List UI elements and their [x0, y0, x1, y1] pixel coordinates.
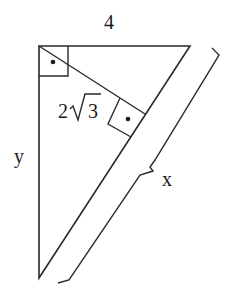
right-triangle	[39, 46, 190, 278]
right-angle-dot-foot	[126, 117, 131, 122]
label-altitude-coefficient: 2	[58, 100, 68, 122]
label-altitude: 2 3	[58, 94, 101, 122]
label-altitude-radicand: 3	[88, 100, 98, 122]
label-hypotenuse: x	[162, 168, 172, 190]
triangle-diagram: 4 2 3 y x	[0, 0, 237, 294]
hypotenuse-brace	[58, 48, 219, 283]
label-left-side: y	[14, 145, 24, 168]
label-top-side: 4	[104, 11, 114, 33]
right-angle-dot-vertex	[51, 60, 56, 65]
